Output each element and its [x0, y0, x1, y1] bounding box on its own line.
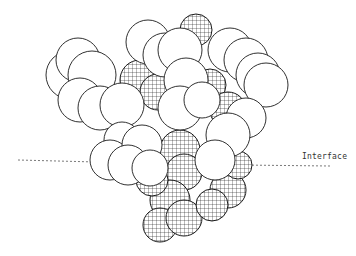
- plain-atom: [195, 140, 235, 180]
- plain-atom: [184, 82, 220, 118]
- plain-atom: [132, 150, 168, 186]
- mesh-atom: [196, 189, 228, 221]
- interface-label: Interface: [302, 152, 347, 161]
- molecular-model-diagram: [0, 0, 356, 256]
- interface-dash-left: [18, 160, 96, 162]
- plain-atom: [100, 83, 144, 127]
- interface-dash-right: [240, 165, 330, 166]
